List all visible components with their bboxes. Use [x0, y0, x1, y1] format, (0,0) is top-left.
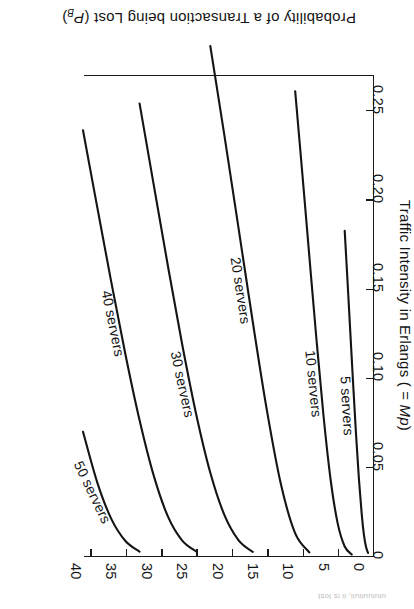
- figure-caption-fragment: uiuiuuiiuii, ii is lost: [318, 592, 386, 601]
- y-tick-label: 0.25: [370, 85, 386, 114]
- x-tick-mark: [303, 549, 304, 557]
- x-axis-title: Traffic Intensity in Erlangs ( = Mp): [397, 200, 414, 431]
- y-axis-title: Probability of a Transaction being Lost …: [62, 7, 356, 27]
- x-tick-mark: [232, 549, 233, 557]
- x-tick-mark: [267, 549, 268, 557]
- x-tick-mark: [338, 549, 339, 557]
- x-tick-label: 35: [103, 563, 119, 580]
- x-tick-label: 5: [316, 563, 332, 571]
- y-tick-label: 0.10: [370, 352, 386, 381]
- x-tick-mark: [196, 549, 197, 557]
- x-tick-label: 30: [139, 563, 155, 580]
- x-tick-label: 20: [210, 563, 226, 580]
- y-tick-label: 0.15: [370, 263, 386, 292]
- x-tick-label: 15: [245, 563, 261, 580]
- x-tick-label: 10: [280, 563, 296, 580]
- curve-layer: [83, 74, 373, 556]
- curve-10-servers: [295, 91, 352, 554]
- x-tick-label: 40: [68, 563, 84, 580]
- curve-20-servers: [210, 46, 309, 552]
- x-tick-mark: [90, 549, 91, 557]
- x-tick-label: 0: [351, 563, 367, 571]
- plot-area: [84, 75, 374, 557]
- y-tick-label: 0: [370, 551, 386, 559]
- y-tick-label: 0.20: [370, 174, 386, 203]
- x-tick-label: 25: [174, 563, 190, 580]
- x-tick-mark: [161, 549, 162, 557]
- y-tick-label: 0.05: [370, 442, 386, 471]
- x-tick-mark: [126, 549, 127, 557]
